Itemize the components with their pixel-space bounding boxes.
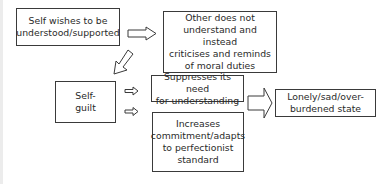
arrow-right-small-icon	[125, 108, 138, 116]
arrow-right-small-icon	[125, 87, 138, 95]
arrow-right-icon	[128, 27, 156, 40]
arrows-layer	[0, 0, 389, 184]
arrow-down-left-icon	[114, 50, 133, 74]
arrow-right-large-icon	[248, 88, 272, 118]
